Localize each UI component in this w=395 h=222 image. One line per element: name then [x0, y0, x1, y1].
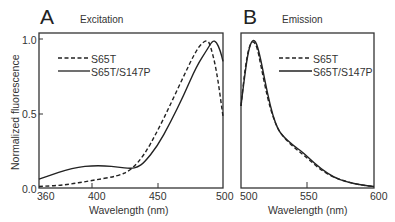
- series-layer: [39, 41, 374, 187]
- series-a-s65t-s147p: [39, 41, 223, 179]
- series-b-s65t-s147p: [241, 41, 374, 187]
- chart-canvas: [0, 0, 395, 222]
- panel-b-frame: [241, 33, 374, 188]
- series-a-s65t: [39, 41, 223, 187]
- panel-a-frame: [39, 33, 223, 188]
